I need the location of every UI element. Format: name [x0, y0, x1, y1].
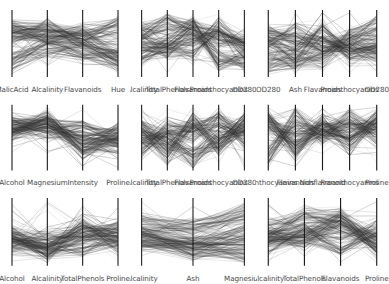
- plot-area: [0, 95, 130, 188]
- parallel-plot-panel: OD280AshFlavanoidsProanthocyaninsOD280: [256, 0, 389, 95]
- plot-area: [130, 188, 256, 284]
- data-lines: [12, 108, 118, 168]
- parallel-plot-panel: AlcalinityAshMagnesium: [130, 188, 256, 284]
- plot-area: [0, 0, 130, 95]
- parallel-plot-panel: AlcalinityTotalPhenolsFlavanoidsProantho…: [130, 95, 256, 188]
- plot-area: [130, 0, 256, 95]
- parallel-plot-panel: AlcoholMagnesiumIntensityProline: [0, 95, 130, 188]
- data-lines: [268, 202, 376, 264]
- data-lines: [12, 16, 118, 73]
- plot-area: [130, 95, 256, 188]
- parallel-plot-panel: AlcoholAlcalinityTotalPhenolsProline: [0, 188, 130, 284]
- plot-area: [0, 188, 130, 284]
- parallel-plot-panel: AlcalinityTotalPhenolsFlavanoidsProantho…: [130, 0, 256, 95]
- parallel-coordinates-grid: MalicAcidAlcalinityFlavanoidsHueAlcalini…: [0, 0, 389, 284]
- parallel-plot-panel: MalicAcidAlcalinityFlavanoidsHue: [0, 0, 130, 95]
- parallel-plot-panel: AlcalinityTotalPhenolsFlavanoidsProline: [256, 188, 389, 284]
- data-lines: [12, 202, 118, 263]
- plot-area: [256, 188, 389, 284]
- plot-area: [256, 95, 389, 188]
- parallel-plot-panel: ProanthocyaninsFlavanoidsNonflavanoidPro…: [256, 95, 389, 188]
- plot-area: [256, 0, 389, 95]
